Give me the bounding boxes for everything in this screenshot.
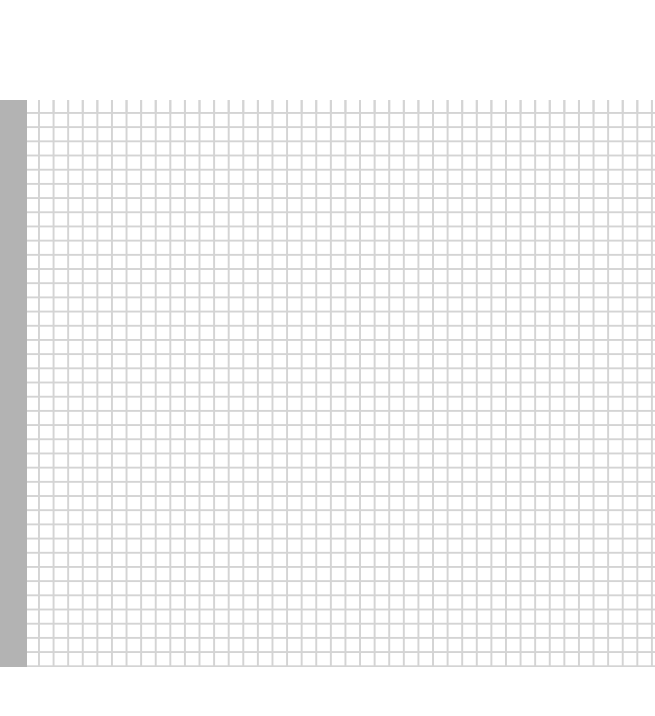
row-header-bar[interactable]	[0, 100, 27, 667]
grid-top-edge	[27, 100, 655, 112]
cell-grid[interactable]	[27, 100, 655, 667]
